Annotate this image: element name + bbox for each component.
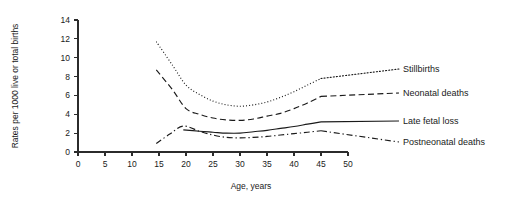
series-label-postneonatal-deaths: Postneonatal deaths — [403, 137, 486, 147]
series-label-late-fetal-loss: Late fetal loss — [403, 116, 459, 126]
series-labels-group: StillbirthsNeonatal deathsLate fetal los… — [403, 64, 486, 147]
y-axis-group: 02468101214 — [61, 15, 78, 157]
y-tick-label: 4 — [65, 109, 70, 119]
y-tick-label: 12 — [61, 34, 71, 44]
y-axis-ticks — [74, 20, 78, 152]
data-series-group — [156, 42, 321, 144]
x-axis-title: Age, years — [231, 181, 272, 191]
x-tick-label: 20 — [181, 159, 191, 169]
y-tick-label: 14 — [61, 15, 71, 25]
y-tick-label: 2 — [65, 128, 70, 138]
x-tick-label: 45 — [316, 159, 326, 169]
x-axis-tick-labels: 05101520253035404550 — [76, 159, 353, 169]
x-tick-label: 35 — [262, 159, 272, 169]
y-tick-label: 8 — [65, 72, 70, 82]
series-label-neonatal-deaths: Neonatal deaths — [403, 88, 469, 98]
y-axis-tick-labels: 02468101214 — [61, 15, 71, 157]
x-tick-label: 25 — [208, 159, 218, 169]
y-tick-label: 6 — [65, 90, 70, 100]
y-tick-label: 10 — [61, 53, 71, 63]
series-line-late-fetal-loss — [183, 122, 321, 133]
leader-line-postneonatal-deaths — [321, 131, 399, 142]
y-axis-title: Rates per 1000 live or total births — [10, 24, 20, 149]
leader-line-late-fetal-loss — [321, 121, 399, 122]
x-tick-label: 30 — [235, 159, 245, 169]
x-tick-label: 5 — [103, 159, 108, 169]
x-tick-label: 10 — [127, 159, 137, 169]
series-label-stillbirths: Stillbirths — [403, 64, 440, 74]
leader-line-neonatal-deaths — [321, 93, 399, 96]
x-tick-label: 15 — [154, 159, 164, 169]
series-leader-lines — [321, 69, 399, 142]
series-line-stillbirths — [156, 42, 321, 107]
x-axis-group: 05101520253035404550 — [76, 152, 353, 169]
x-tick-label: 50 — [343, 159, 353, 169]
chart-svg: 02468101214 05101520253035404550 Stillbi… — [0, 0, 515, 204]
x-tick-label: 40 — [289, 159, 299, 169]
x-axis-ticks — [78, 152, 348, 156]
y-tick-label: 0 — [65, 147, 70, 157]
chart-figure: 02468101214 05101520253035404550 Stillbi… — [0, 0, 515, 204]
x-tick-label: 0 — [76, 159, 81, 169]
series-line-postneonatal-deaths — [156, 126, 321, 143]
leader-line-stillbirths — [321, 69, 399, 78]
